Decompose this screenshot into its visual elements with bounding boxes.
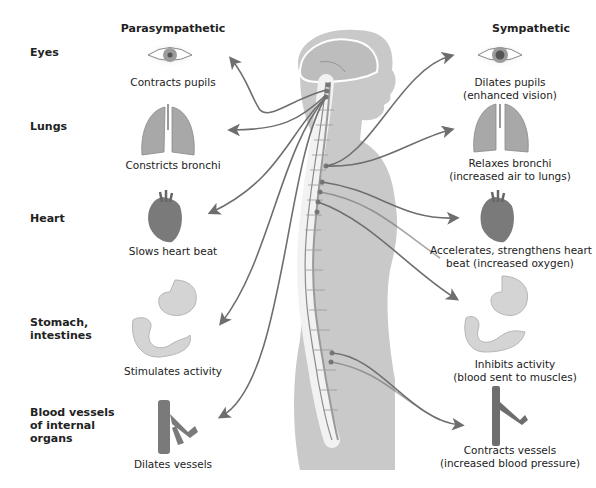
symp-caption-stomach: Inhibits activity (blood sent to muscles… bbox=[440, 358, 590, 384]
symp-heart-icon bbox=[481, 190, 514, 242]
caption-line: Relaxes bronchi bbox=[440, 157, 580, 170]
para-stomach-intestines-icon bbox=[132, 280, 196, 357]
para-blood-vessel-icon bbox=[158, 400, 198, 454]
caption-line: Dilates pupils bbox=[440, 76, 580, 89]
para-caption-heart: Slows heart beat bbox=[118, 245, 228, 258]
symp-caption-vessels: Contracts vessels (increased blood press… bbox=[430, 444, 590, 470]
symp-caption-heart: Accelerates, strengthens heart beat (inc… bbox=[430, 244, 590, 270]
caption-line: (enhanced vision) bbox=[440, 89, 580, 102]
caption-line: beat (increased oxygen) bbox=[430, 257, 590, 270]
symp-caption-eyes: Dilates pupils (enhanced vision) bbox=[440, 76, 580, 102]
caption-line: (increased blood pressure) bbox=[430, 457, 590, 470]
para-eye-icon bbox=[142, 41, 198, 69]
caption-line: Inhibits activity bbox=[440, 358, 590, 371]
symp-stomach-intestines-icon bbox=[465, 276, 528, 352]
para-heart-icon bbox=[148, 190, 182, 242]
symp-lungs-icon bbox=[474, 104, 529, 152]
para-caption-stomach: Stimulates activity bbox=[118, 365, 228, 378]
para-caption-eyes: Contracts pupils bbox=[118, 76, 228, 89]
para-caption-vessels: Dilates vessels bbox=[118, 458, 228, 471]
symp-eye-icon bbox=[472, 41, 528, 69]
para-lungs-icon bbox=[142, 104, 195, 155]
symp-blood-vessel-icon bbox=[492, 386, 528, 446]
symp-caption-lungs: Relaxes bronchi (increased air to lungs) bbox=[440, 157, 580, 183]
caption-line: (blood sent to muscles) bbox=[440, 371, 590, 384]
caption-line: Contracts vessels bbox=[430, 444, 590, 457]
caption-line: (increased air to lungs) bbox=[440, 170, 580, 183]
caption-line: Accelerates, strengthens heart bbox=[430, 244, 590, 257]
para-caption-lungs: Constricts bronchi bbox=[118, 159, 228, 172]
